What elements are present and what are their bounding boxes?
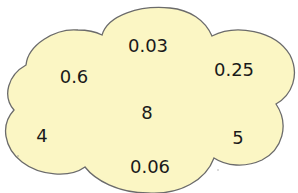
speck [217, 169, 219, 171]
number-label: 0.25 [214, 61, 254, 79]
number-label: 8 [141, 104, 152, 122]
number-cloud-diagram: 0.03 0.6 0.25 8 4 5 0.06 [0, 0, 298, 193]
number-label: 0.03 [128, 37, 168, 55]
number-label: 5 [232, 129, 243, 147]
speck [17, 155, 19, 157]
number-label: 0.6 [60, 68, 89, 86]
number-label: 0.06 [130, 158, 170, 176]
number-label: 4 [36, 127, 47, 145]
